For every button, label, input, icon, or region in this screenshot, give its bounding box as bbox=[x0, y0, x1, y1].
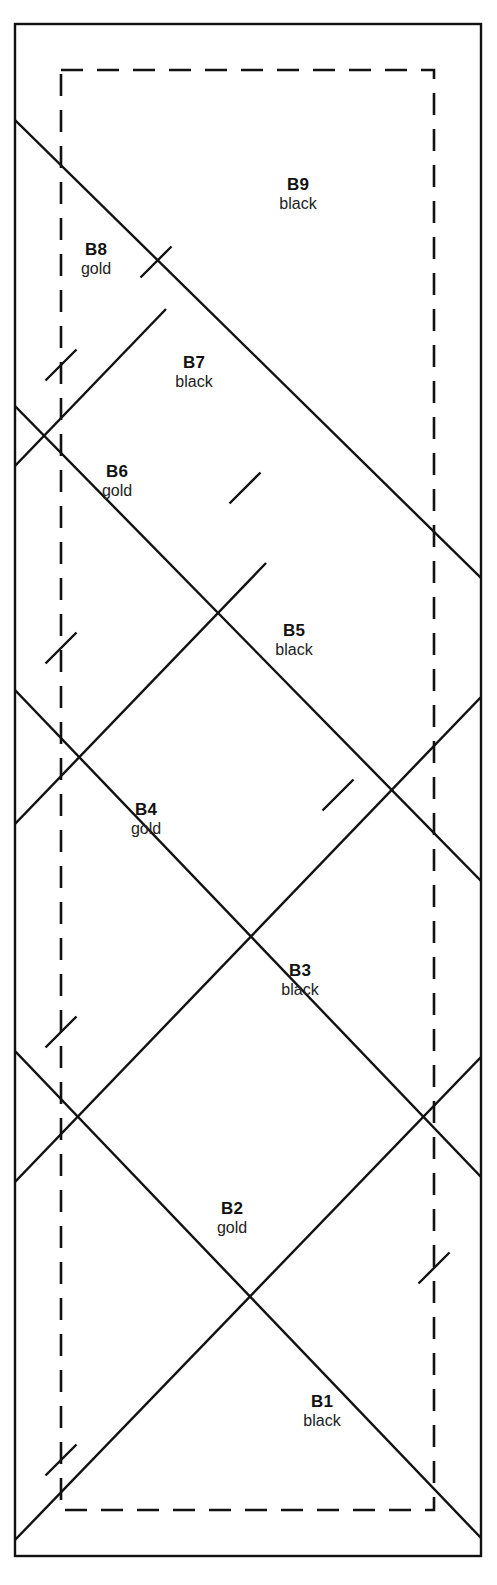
line-drawing bbox=[0, 0, 497, 1585]
descending-cut-lines bbox=[15, 120, 481, 1538]
descending-line-1 bbox=[15, 120, 481, 578]
tick-mark-b8 bbox=[141, 247, 172, 278]
seam-line-group bbox=[15, 120, 481, 1540]
intersection-tick-marks bbox=[46, 247, 450, 1476]
ascending-line-4 bbox=[15, 309, 166, 466]
ascending-line-3 bbox=[15, 563, 266, 824]
descending-line-3 bbox=[15, 690, 481, 1177]
ascending-line-2 bbox=[15, 697, 481, 1182]
ascending-fold-lines bbox=[15, 309, 481, 1540]
descending-line-2 bbox=[15, 406, 481, 881]
ascending-line-1 bbox=[15, 1057, 481, 1540]
fabric-edge-border bbox=[15, 24, 481, 1556]
tick-mark-b4 bbox=[323, 780, 354, 811]
tick-mark-b6 bbox=[230, 473, 261, 504]
diagram-canvas: B9 black B8 gold B7 black B6 gold B5 bla… bbox=[0, 0, 497, 1585]
descending-line-4 bbox=[15, 1051, 481, 1538]
